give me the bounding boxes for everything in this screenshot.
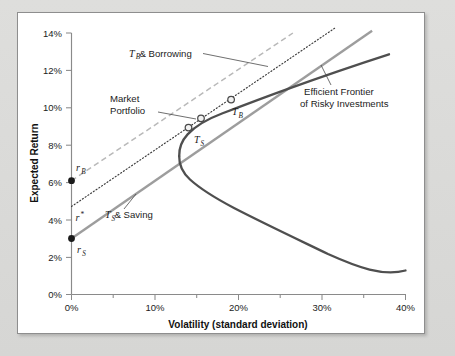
svg-text:of Risky Investments: of Risky Investments — [300, 98, 389, 109]
svg-text:& Borrowing: & Borrowing — [140, 48, 192, 59]
y-tick-label-4: 4% — [48, 215, 62, 226]
series-ts-saving-line — [72, 31, 373, 239]
svg-text:B: B — [81, 168, 86, 176]
annotation-rb-label: r B — [76, 162, 86, 176]
annotation-market-portfolio: Market Portfolio — [110, 93, 196, 119]
svg-text:S: S — [82, 250, 86, 258]
series-efficient-frontier-lower — [179, 156, 405, 272]
tb-borrowing-leader — [203, 54, 268, 67]
y-tick-label-6: 6% — [48, 177, 62, 188]
svg-text:r: r — [76, 162, 80, 173]
marker-market-portfolio-point — [198, 115, 205, 122]
x-tick-label-20: 20% — [229, 302, 249, 313]
y-tick-label-0: 0% — [48, 289, 62, 300]
annotation-ts-point-label: T S — [194, 134, 205, 148]
y-tick-label-2: 2% — [48, 252, 62, 263]
axes-group: 14% 12% 10% 8% 6% 4% 2% 0% 0% 10% 20% 30… — [29, 28, 416, 331]
svg-text:B: B — [239, 112, 244, 120]
y-tick-marks — [66, 33, 72, 295]
svg-text:r: r — [76, 212, 80, 223]
x-tick-label-40: 40% — [396, 302, 416, 313]
svg-text:& Saving: & Saving — [115, 209, 153, 220]
expected-return-volatility-chart: 14% 12% 10% 8% 6% 4% 2% 0% 0% 10% 20% 30… — [18, 13, 424, 333]
svg-text:Market: Market — [110, 93, 140, 104]
x-tick-marks — [72, 295, 406, 301]
annotation-rs-label: r S — [77, 244, 86, 258]
annotation-rstar-label: r * — [76, 211, 85, 223]
page-background: 14% 12% 10% 8% 6% 4% 2% 0% 0% 10% 20% 30… — [0, 0, 455, 356]
y-tick-label-12: 12% — [43, 65, 63, 76]
svg-text:S: S — [201, 140, 205, 148]
x-axis-title: Volatility (standard deviation) — [168, 319, 307, 330]
marker-tb-point — [228, 96, 235, 103]
marker-ts-point — [185, 124, 192, 131]
y-tick-label-8: 8% — [48, 140, 62, 151]
y-tick-label-14: 14% — [43, 28, 63, 39]
svg-text:*: * — [80, 211, 84, 219]
x-tick-label-0: 0% — [65, 302, 79, 313]
y-tick-label-10: 10% — [43, 102, 63, 113]
market-portfolio-leader — [158, 112, 196, 119]
figure-panel: 14% 12% 10% 8% 6% 4% 2% 0% 0% 10% 20% 30… — [17, 12, 425, 334]
svg-text:Efficient Frontier: Efficient Frontier — [304, 86, 374, 97]
marker-rb-point — [68, 177, 75, 184]
svg-text:Portfolio: Portfolio — [110, 105, 145, 116]
svg-text:r: r — [77, 244, 81, 255]
marker-rs-point — [68, 235, 75, 242]
x-tick-label-30: 30% — [312, 302, 332, 313]
x-tick-label-10: 10% — [145, 302, 165, 313]
y-axis-title: Expected Return — [29, 123, 40, 202]
